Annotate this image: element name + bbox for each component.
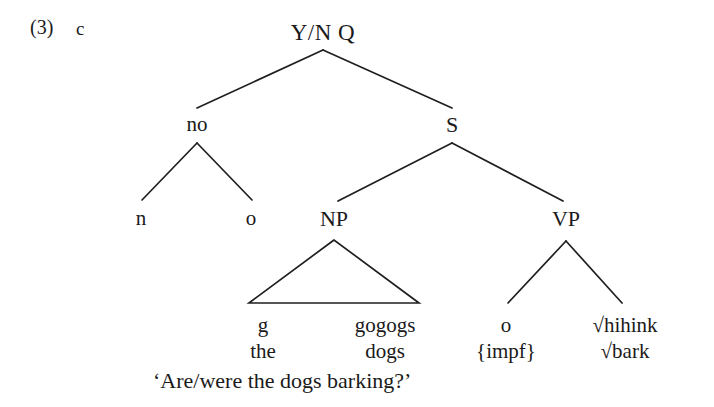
- leaf-gloss-noun: dogs: [365, 339, 405, 364]
- example-letter: c: [76, 18, 84, 40]
- leaf-morph-aspect: o: [501, 313, 512, 338]
- np-ellipsis-triangle: [249, 240, 419, 303]
- tree-node-no: no: [187, 112, 208, 137]
- edge-vp-verb: [566, 241, 622, 303]
- leaf-morph-verb: √hihink: [592, 313, 657, 338]
- edge-s-np: [338, 143, 452, 201]
- edge-root-no: [197, 50, 323, 108]
- tree-node-vp: VP: [552, 206, 580, 232]
- edge-root-s: [323, 50, 452, 108]
- tree-node-np: NP: [320, 206, 348, 232]
- tree-node-o-negation: o: [246, 206, 257, 231]
- leaf-morph-det: g: [258, 313, 269, 338]
- free-translation: ‘Are/were the dogs barking?’: [153, 368, 411, 394]
- leaf-gloss-verb: √bark: [601, 339, 650, 364]
- edge-no-n: [142, 143, 197, 200]
- tree-edges: [142, 50, 622, 303]
- leaf-morph-noun: gogogs: [355, 313, 416, 338]
- syntax-tree-figure: (3) c Y/N Q no S n o NP VP g the gogogs …: [0, 0, 714, 407]
- leaf-gloss-det: the: [250, 339, 276, 364]
- edge-no-o: [197, 143, 252, 200]
- tree-node-s: S: [446, 112, 458, 138]
- tree-node-root: Y/N Q: [291, 20, 355, 46]
- edge-s-vp: [452, 143, 563, 201]
- tree-node-n: n: [136, 206, 147, 231]
- leaf-gloss-aspect: {impf}: [476, 339, 536, 364]
- edge-vp-aspect: [508, 241, 566, 303]
- example-number: (3): [30, 16, 53, 39]
